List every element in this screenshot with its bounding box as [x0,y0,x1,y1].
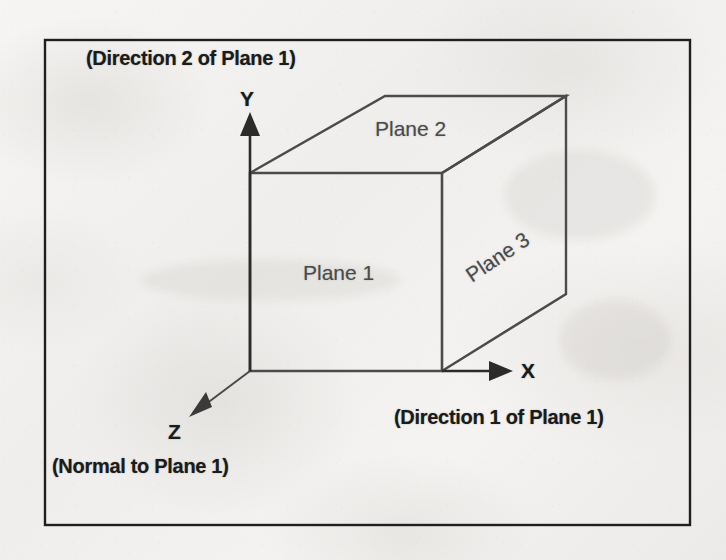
label-plane-1: Plane 1 [303,262,374,283]
y-axis [240,112,260,372]
label-direction-2-of-plane-1: (Direction 2 of Plane 1) [86,48,296,68]
label-normal-to-plane-1: (Normal to Plane 1) [52,456,229,476]
label-z-axis: Z [168,421,181,442]
label-plane-2: Plane 2 [375,118,446,139]
label-direction-1-of-plane-1: (Direction 1 of Plane 1) [394,407,604,427]
cube-right-face-plane-3 [442,96,566,371]
label-y-axis: Y [240,88,254,109]
label-x-axis: X [521,360,535,381]
figure-page: (Direction 2 of Plane 1) Y X Z Plane 1 P… [0,0,726,560]
z-axis [189,371,250,417]
